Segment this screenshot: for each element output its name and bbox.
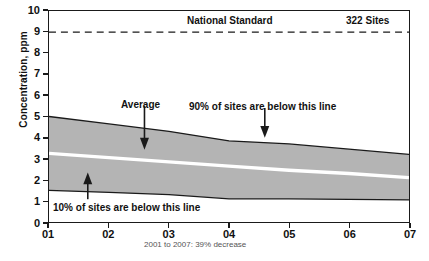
y-tick-label: 10 <box>20 5 40 16</box>
x-tick-mark <box>108 223 110 228</box>
plot-graphics <box>49 11 409 222</box>
p90-label: 90% of sites are below this line <box>189 101 336 112</box>
y-tick-label: 4 <box>20 132 40 143</box>
x-tick-label: 02 <box>95 229 121 240</box>
x-tick-mark <box>47 223 49 228</box>
chart-caption: 2001 to 2007: 39% decrease <box>144 240 246 249</box>
y-tick-label: 3 <box>20 154 40 165</box>
x-tick-label: 06 <box>337 229 363 240</box>
site-count-label: 322 Sites <box>346 15 389 26</box>
x-tick-label: 05 <box>276 229 302 240</box>
average-label: Average <box>121 99 160 110</box>
y-tick-label: 8 <box>20 47 40 58</box>
x-tick-label: 04 <box>216 229 242 240</box>
x-tick-mark <box>349 223 351 228</box>
x-tick-label: 03 <box>156 229 182 240</box>
y-tick-label: 1 <box>20 196 40 207</box>
y-tick-label: 0 <box>20 218 40 229</box>
y-tick-label: 2 <box>20 175 40 186</box>
x-tick-mark <box>289 223 291 228</box>
y-tick-label: 5 <box>20 111 40 122</box>
x-tick-mark <box>168 223 170 228</box>
chart-screenshot: Concentration, ppm 109876543210 01020304… <box>0 0 429 261</box>
p10-label: 10% of sites are below this line <box>53 202 200 213</box>
y-tick-label: 6 <box>20 90 40 101</box>
x-tick-mark <box>409 223 411 228</box>
y-tick-label: 9 <box>20 26 40 37</box>
p90-arrow <box>260 108 269 138</box>
y-tick-label: 7 <box>20 68 40 79</box>
plot-area: National Standard 322 Sites Average 90% … <box>48 10 410 223</box>
x-tick-mark <box>228 223 230 228</box>
x-tick-label: 07 <box>397 229 423 240</box>
national-standard-label: National Standard <box>187 15 273 26</box>
x-tick-label: 01 <box>35 229 61 240</box>
